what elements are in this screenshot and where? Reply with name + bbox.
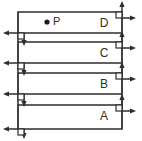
right-corner-square-2 — [116, 42, 122, 48]
right-force-group-4 — [116, 94, 136, 114]
figure-container: D C B A — [0, 0, 142, 141]
left-force-group-3 — [3, 91, 27, 107]
left-force-group-2 — [3, 60, 27, 76]
point-p-label: P — [53, 15, 60, 27]
right-force-group-1 — [116, 1, 136, 21]
right-arrow-head-3 — [130, 76, 136, 81]
right-force-group-2 — [116, 31, 136, 51]
right-arrow-head-2 — [130, 45, 136, 50]
up-arrow-head-1 — [119, 1, 124, 7]
point-p-dot-icon — [44, 19, 49, 24]
slab-label-d: D — [100, 16, 109, 30]
stacked-slab-diagram: D C B A — [0, 0, 142, 141]
left-corner-square-3 — [18, 94, 24, 100]
slab-group-d: D — [18, 12, 122, 33]
right-arrow-head-1 — [130, 15, 136, 20]
left-corner-square-2 — [18, 63, 24, 69]
slab-group-b: B — [18, 73, 122, 94]
slab-group-c: C — [18, 42, 122, 63]
left-arrow-head-4 — [3, 126, 9, 131]
left-corner-square-1 — [18, 33, 24, 39]
right-corner-square-4 — [116, 105, 122, 111]
right-force-group-3 — [116, 62, 136, 82]
left-arrow-head-2 — [3, 60, 9, 65]
slab-group-a: A — [18, 105, 122, 129]
slab-label-a: A — [100, 109, 108, 123]
left-force-group-1 — [3, 30, 27, 46]
left-arrow-head-3 — [3, 91, 9, 96]
left-corner-square-4 — [18, 129, 24, 135]
left-arrow-head-1 — [3, 30, 9, 35]
right-arrow-head-4 — [130, 108, 136, 113]
slab-label-c: C — [100, 46, 109, 60]
right-corner-square-1 — [116, 12, 122, 18]
slab-label-b: B — [100, 77, 108, 91]
right-corner-square-3 — [116, 73, 122, 79]
up-arrow-head-4 — [119, 94, 124, 100]
